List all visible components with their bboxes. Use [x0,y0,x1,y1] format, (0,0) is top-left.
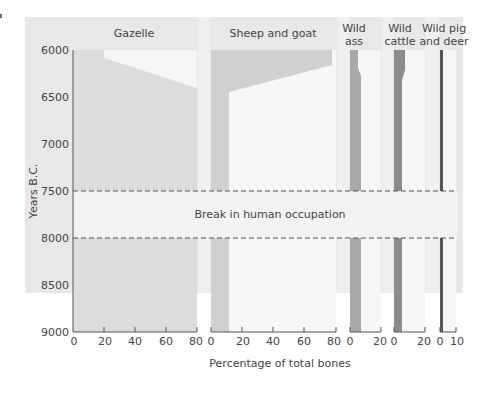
bullet-mark [0,14,2,18]
x-tick: 20 [417,335,431,348]
x-tick: 20 [236,335,250,348]
x-tick: 0 [437,335,444,348]
gutter [198,17,210,293]
y-tick: 9000 [41,326,69,339]
x-tick: 20 [98,335,112,348]
gutter [426,17,439,293]
x-tick: 20 [373,335,387,348]
wild-pig-title-1: Wild pig [422,22,466,35]
y-tick: 6000 [41,44,69,57]
x-tick: 0 [391,335,398,348]
x-tick: 0 [71,335,78,348]
x-tick: 40 [266,335,280,348]
bone-percentage-chart: Break in human occupation 6000 6500 7000… [0,0,488,393]
x-tick: 0 [347,335,354,348]
y-tick: 8500 [41,279,69,292]
sheep-goat-title: Sheep and goat [230,27,318,40]
x-tick: 60 [159,335,173,348]
wild-ass-title-1: Wild [342,22,366,35]
y-tick: 8000 [41,232,69,245]
x-tick: 10 [450,335,464,348]
y-axis-label: Years B.C. [27,164,40,220]
x-tick: 80 [189,335,203,348]
wild-cattle-title-1: Wild [388,22,412,35]
break-label: Break in human occupation [194,208,345,221]
y-tick: 6500 [41,91,69,104]
y-tick: 7500 [41,185,69,198]
x-axis-label: Percentage of total bones [209,357,351,370]
wild-pig-title-2: and deer [419,35,469,48]
x-tick: 80 [327,335,341,348]
x-tick: 0 [208,335,215,348]
wild-ass-title-2: ass [345,35,363,48]
gazelle-title: Gazelle [114,27,155,40]
gutter [337,17,349,293]
x-tick: 40 [128,335,142,348]
x-tick: 60 [297,335,311,348]
gutter [382,17,393,293]
x-tick-labels: 0 20 40 60 80 0 20 40 60 80 0 20 0 20 0 … [71,335,465,348]
wild-cattle-title-2: cattle [384,35,415,48]
y-tick: 7000 [41,138,69,151]
